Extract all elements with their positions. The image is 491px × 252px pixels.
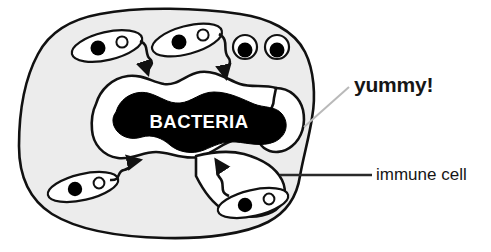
bacteria-label: BACTERIA (150, 111, 249, 132)
yummy-label: yummy! (354, 73, 433, 97)
eye-right (265, 35, 289, 59)
immune-cell-diagram: BACTERIA (0, 0, 491, 252)
immune-cell-label: immune cell (376, 165, 467, 185)
eye-left (233, 35, 257, 59)
